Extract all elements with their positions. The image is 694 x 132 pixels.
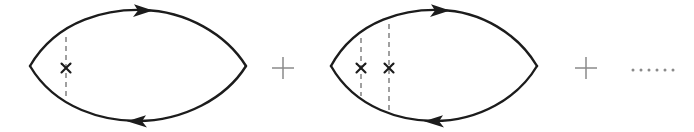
diagram-figure (0, 0, 694, 132)
impurity-cross-icon-1 (357, 64, 366, 73)
plus-operator-1 (272, 57, 294, 79)
plus-operator-2 (575, 57, 597, 79)
bubble-diagram-term-2 (331, 4, 537, 127)
propagator-upper-arc (30, 10, 246, 66)
propagator-lower-arc (331, 66, 537, 121)
series-ellipsis (632, 69, 675, 72)
propagator-upper-arc (331, 10, 537, 66)
bubble-diagram-term-1 (30, 4, 246, 127)
propagator-lower-arc (30, 66, 246, 121)
diagram-canvas (0, 0, 694, 132)
